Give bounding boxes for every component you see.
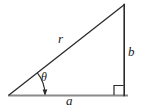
right-angle-marker — [114, 86, 124, 96]
hypotenuse-label: r — [58, 32, 63, 45]
opposite-side-label: b — [128, 45, 135, 58]
right-triangle-figure: r b a θ — [0, 0, 142, 108]
adjacent-side-label: a — [66, 94, 73, 107]
hypotenuse-line — [9, 5, 125, 96]
triangle-diagram-svg — [0, 0, 142, 108]
angle-label-theta: θ — [41, 71, 47, 83]
